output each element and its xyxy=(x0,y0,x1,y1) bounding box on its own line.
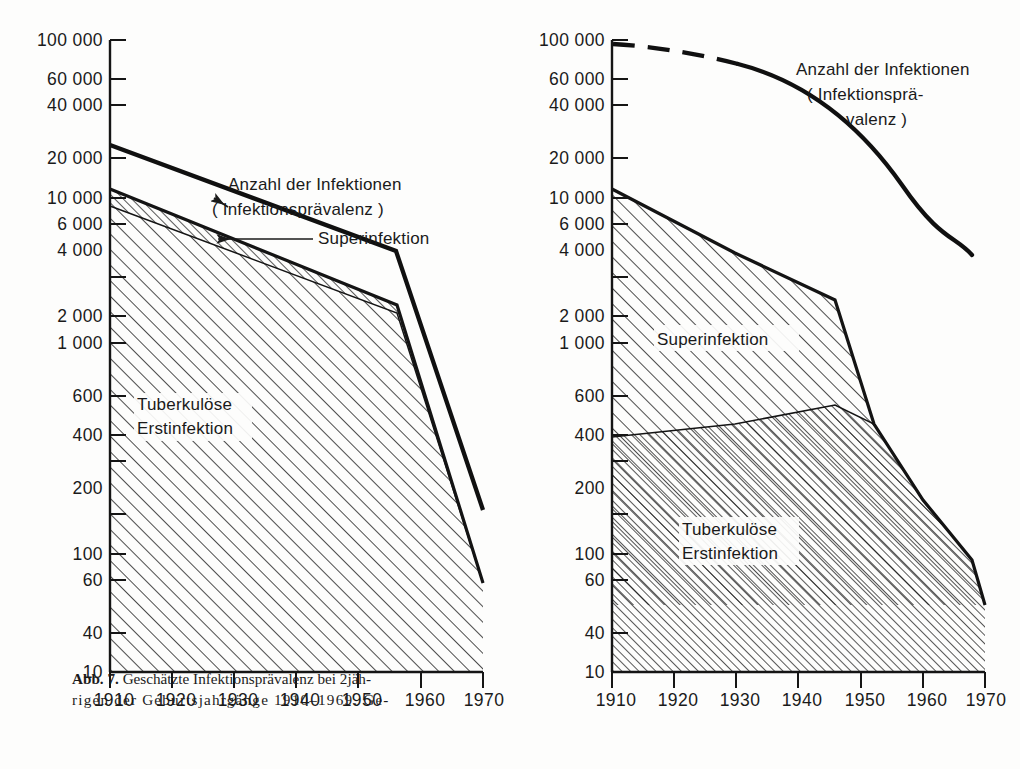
y-tick-label: 10 000 xyxy=(47,188,103,208)
annotation-label: Anzahl der Infektionen xyxy=(228,175,402,194)
y-tick-label: 60 xyxy=(83,570,103,590)
figure-abb-7: 100 000 60 000 40 000 20 000 10 000 6 00… xyxy=(0,0,510,710)
chart-abb-8: 100 000 60 000 40 000 20 000 10 000 6 00… xyxy=(510,0,1020,710)
annotation-label: Erstinfektion xyxy=(682,544,778,563)
annotation-infections-abb8: Anzahl der Infektionen ( Infektionsprä- … xyxy=(796,60,970,129)
y-tick-labels-abb7: 100 000 60 000 40 000 20 000 10 000 6 00… xyxy=(37,30,103,682)
annotation-primary-infection-abb8: Tuberkulöse Erstinfektion xyxy=(679,517,799,565)
x-tick-labels-abb8: 1910 1920 1930 1940 1950 1960 1970 xyxy=(596,690,1007,710)
annotation-label: Tuberkulöse xyxy=(137,395,232,414)
annotation-label: Anzahl der Infektionen xyxy=(796,60,970,79)
y-tick-label: 10 xyxy=(585,662,605,682)
chart-abb-7: 100 000 60 000 40 000 20 000 10 000 6 00… xyxy=(0,0,510,710)
y-tick-label: 400 xyxy=(575,425,605,445)
y-tick-label: 200 xyxy=(73,478,103,498)
x-tick-label: 1950 xyxy=(845,690,886,710)
y-tick-label: 40 xyxy=(83,623,103,643)
x-tick-label: 1920 xyxy=(658,690,699,710)
y-tick-label: 4 000 xyxy=(559,240,605,260)
annotation-label: valenz ) xyxy=(846,110,907,129)
y-tick-label: 20 000 xyxy=(47,148,103,168)
y-tick-label: 1 000 xyxy=(559,333,605,353)
y-tick-label: 100 000 xyxy=(539,30,605,50)
annotation-infections-abb7: Anzahl der Infektionen ( Infektionspräva… xyxy=(212,175,402,219)
y-tick-label: 6 000 xyxy=(559,214,605,234)
figure-page: 100 000 60 000 40 000 20 000 10 000 6 00… xyxy=(0,0,1020,769)
annotation-label: Tuberkulöse xyxy=(682,520,777,539)
annotation-label: ( Infektionsprävalenz ) xyxy=(212,200,384,219)
y-tick-label: 60 000 xyxy=(549,69,605,89)
annotation-label: Superinfektion xyxy=(657,330,768,349)
x-tick-label: 1960 xyxy=(907,690,948,710)
x-tick-label: 1930 xyxy=(720,690,761,710)
y-tick-label: 2 000 xyxy=(57,306,103,326)
y-tick-label: 200 xyxy=(575,478,605,498)
y-tick-label: 40 xyxy=(585,623,605,643)
annotation-primary-infection-abb7: Tuberkulöse Erstinfektion xyxy=(134,393,252,441)
caption-text: rigen der Geburtsjahrgänge 1910–1969. Ge… xyxy=(72,689,508,710)
infections-curve-dashed-abb8 xyxy=(613,44,738,64)
annotation-label: ( Infektionsprä- xyxy=(807,85,924,104)
y-tick-label: 40 000 xyxy=(47,95,103,115)
y-tick-label: 1 000 xyxy=(57,333,103,353)
y-tick-label: 60 xyxy=(585,570,605,590)
y-tick-label: 600 xyxy=(73,386,103,406)
x-tick-label: 1970 xyxy=(966,690,1007,710)
y-tick-label: 400 xyxy=(73,425,103,445)
figure-abb-8: 100 000 60 000 40 000 20 000 10 000 6 00… xyxy=(510,0,1020,710)
caption-text: Geschätzte Infektionsprävalenz bei 2jäh- xyxy=(123,670,371,687)
y-tick-labels-abb8: 100 000 60 000 40 000 20 000 10 000 6 00… xyxy=(539,30,605,682)
y-tick-label: 2 000 xyxy=(559,306,605,326)
y-tick-label: 100 000 xyxy=(37,30,103,50)
annotation-label: Superinfektion xyxy=(318,229,429,248)
caption-label: Abb. 7. xyxy=(72,670,119,687)
y-tick-label: 60 000 xyxy=(47,69,103,89)
caption-abb-7: Abb. 7. Geschätzte Infektionsprävalenz b… xyxy=(72,668,508,710)
y-tick-label: 4 000 xyxy=(57,240,103,260)
annotation-label: Erstinfektion xyxy=(137,419,233,438)
x-tick-label: 1940 xyxy=(782,690,823,710)
y-tick-label: 600 xyxy=(575,386,605,406)
annotation-superinfection-abb8: Superinfektion xyxy=(654,325,799,351)
x-tick-label: 1910 xyxy=(596,690,637,710)
y-tick-label: 40 000 xyxy=(549,95,605,115)
y-tick-label: 100 xyxy=(575,544,605,564)
y-tick-label: 10 000 xyxy=(549,188,605,208)
y-tick-label: 100 xyxy=(73,544,103,564)
y-tick-label: 6 000 xyxy=(57,214,103,234)
y-tick-label: 20 000 xyxy=(549,148,605,168)
